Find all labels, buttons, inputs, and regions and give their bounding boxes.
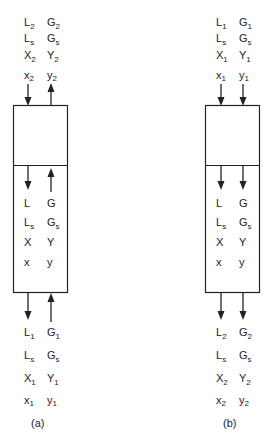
arrow-down-icon [218,97,225,106]
label-G: G [239,197,248,209]
label-y: y [47,256,53,268]
arrow-down-icon [25,97,32,106]
label-L1: L1 [24,326,35,341]
label-Ls: Ls [24,32,34,47]
label-G2: G2 [47,16,61,31]
label-Gs: Gs [239,349,252,364]
arrow-down-icon [25,311,32,320]
label-X2: X2 [216,372,228,387]
label-Y1: Y1 [239,49,251,64]
label-G1: G1 [239,16,253,31]
column-box-a [14,106,68,293]
label-Y: Y [47,236,55,248]
label-Ls: Ls [216,349,226,364]
label-L: L [24,197,30,209]
label-L2: L2 [216,326,227,341]
label-Gs: Gs [239,32,252,47]
label-Ls: Ls [216,32,226,47]
countercurrent-cocurrent-diagram: L2 G2 Ls Gs X2 Y2 x2 y2 L G Ls Gs X Y [0,0,271,442]
label-y1: y1 [239,69,250,83]
panel-a-middle-labels: L G Ls Gs X Y x y [24,197,60,268]
label-Y1: Y1 [47,372,59,387]
arrow-down-icon [240,97,247,106]
arrow-down-icon [240,311,247,320]
caption-a: (a) [31,417,44,429]
arrow-down-icon [218,311,225,320]
panel-b-middle-labels: L G Ls Gs X Y x y [216,197,252,268]
arrow-down-icon [25,181,32,190]
arrow-down-icon [240,181,247,190]
label-Y: Y [239,236,247,248]
label-Ls: Ls [216,216,226,231]
panel-b-top-labels: L1 G1 Ls Gs X1 Y1 x1 y1 [216,16,253,83]
panel-a-top-labels: L2 G2 Ls Gs X2 Y2 x2 y2 [24,16,61,83]
column-box-b [206,106,260,293]
label-x2: x2 [24,69,35,83]
arrow-up-icon [48,83,55,92]
label-X1: X1 [216,49,228,64]
label-x: x [216,256,222,268]
label-x1: x1 [216,69,227,83]
label-Y2: Y2 [47,49,59,64]
label-Ls: Ls [24,349,34,364]
arrow-up-icon [48,168,55,177]
label-X2: X2 [24,49,36,64]
label-X: X [24,236,32,248]
label-Gs: Gs [47,216,60,231]
panel-b: L1 G1 Ls Gs X1 Y1 x1 y1 L G Ls Gs X Y x [206,16,260,429]
panel-b-bottom-labels: L2 G2 Ls Gs X2 Y2 x2 y2 [216,326,253,408]
label-Gs: Gs [47,349,60,364]
arrow-down-icon [218,181,225,190]
label-L: L [216,197,222,209]
label-Ls: Ls [24,216,34,231]
label-L1: L1 [216,16,227,31]
label-x: x [24,256,30,268]
label-x2: x2 [216,394,227,408]
label-x1: x1 [24,394,35,408]
label-y2: y2 [239,394,250,408]
label-G1: G1 [47,326,61,341]
caption-b: (b) [223,417,236,429]
label-y1: y1 [47,394,58,408]
label-Gs: Gs [47,32,60,47]
panel-a-bottom-labels: L1 G1 Ls Gs X1 Y1 x1 y1 [24,326,61,408]
arrow-up-icon [48,293,55,302]
label-G: G [47,197,56,209]
label-L2: L2 [24,16,35,31]
label-y2: y2 [47,69,58,83]
label-X1: X1 [24,372,36,387]
label-Y2: Y2 [239,372,251,387]
label-X: X [216,236,224,248]
panel-a: L2 G2 Ls Gs X2 Y2 x2 y2 L G Ls Gs X Y [14,16,68,429]
label-Gs: Gs [239,216,252,231]
label-y: y [239,256,245,268]
label-G2: G2 [239,326,253,341]
